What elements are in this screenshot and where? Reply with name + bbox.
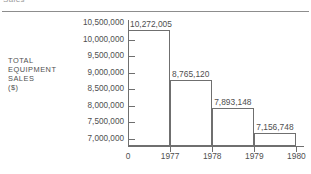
y-axis-tick-label: 9,500,000 [66, 52, 124, 60]
x-axis-tick-label: 1978 [203, 152, 222, 160]
y-axis-tick-label: 7,000,000 [66, 135, 124, 143]
y-axis-tick-label: 10,500,000 [66, 19, 124, 27]
bar-value-label-1980: 7,156,748 [256, 123, 293, 131]
x-axis-tick-label: 1980 [287, 152, 306, 160]
bar-1980 [254, 133, 296, 146]
y-axis-title-line-3: SALES [8, 74, 66, 83]
bar-1977 [128, 30, 170, 146]
bar-chart: TOTAL EQUIPMENT SALES ($) 10,500,00010,0… [0, 14, 311, 174]
bar-1978 [170, 80, 212, 146]
plot-area: 10,272,0058,765,1207,893,1487,156,748 [128, 20, 304, 147]
x-axis-tick-label: 0 [126, 152, 131, 160]
y-axis-title-line-2: EQUIPMENT [8, 65, 66, 74]
y-axis-title-line-4: ($) [8, 83, 66, 92]
x-axis-tick-label: 1977 [161, 152, 180, 160]
bar-1979 [212, 108, 254, 146]
x-axis-tick-label: 1979 [245, 152, 264, 160]
bar-value-label-1979: 7,893,148 [214, 98, 251, 106]
y-axis-tick-label: 8,000,000 [66, 102, 124, 110]
bar-value-label-1977: 10,272,005 [130, 20, 172, 28]
horizontal-rule [2, 11, 309, 12]
y-axis-tick-label: 7,500,000 [66, 118, 124, 126]
y-axis-title-line-1: TOTAL [8, 56, 66, 65]
y-axis-tick-label: 8,500,000 [66, 85, 124, 93]
y-axis-tick-label: 9,000,000 [66, 69, 124, 77]
clipped-page-heading: Sales [3, 0, 25, 4]
y-axis-tick-label: 10,000,000 [66, 36, 124, 44]
bar-value-label-1978: 8,765,120 [172, 70, 209, 78]
x-axis-line [128, 146, 304, 147]
y-axis-title: TOTAL EQUIPMENT SALES ($) [8, 56, 66, 92]
y-axis-tick-labels: 10,500,00010,000,0009,500,0009,000,0008,… [66, 14, 124, 142]
